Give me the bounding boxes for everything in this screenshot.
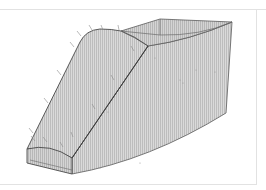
duct-transition-drawing bbox=[0, 0, 266, 190]
drawing-canvas bbox=[0, 0, 266, 190]
